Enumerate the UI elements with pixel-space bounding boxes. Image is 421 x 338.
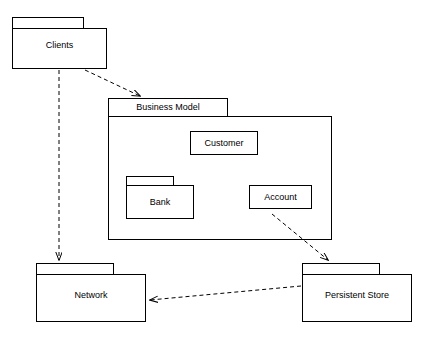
dependency-clients-to-business-model <box>85 70 140 96</box>
dependency-business-model-to-persistent-store <box>272 214 328 260</box>
dependency-persistent-store-to-network <box>150 286 301 300</box>
uml-package-diagram: Clients Business Model Customer Bank Acc… <box>0 0 421 338</box>
dependency-arrows <box>0 0 421 338</box>
